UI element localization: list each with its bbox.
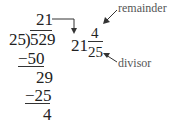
mixed-denominator: 25: [88, 44, 103, 61]
remainder-label: remainder: [118, 2, 167, 14]
quotient-arrow-icon: [52, 19, 77, 34]
mixed-numerator: 4: [91, 25, 99, 42]
fraction-bar: [88, 41, 103, 42]
divisor-label: divisor: [118, 57, 151, 69]
mixed-whole: 21: [71, 37, 88, 54]
divisor-arrow-icon: [103, 53, 117, 62]
remainder-arrow-icon: [103, 10, 117, 24]
